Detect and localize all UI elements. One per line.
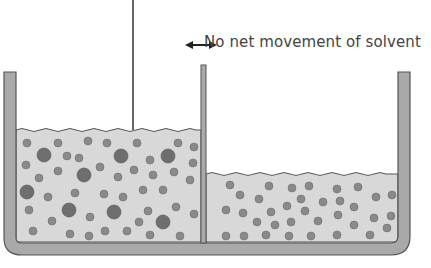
semi-permeable-membrane <box>201 65 206 243</box>
annotation-label: No net movement of solvent <box>204 33 421 51</box>
